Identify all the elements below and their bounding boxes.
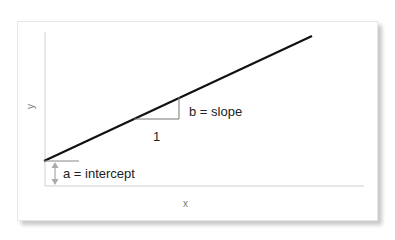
y-axis-label: y [25, 104, 36, 109]
regression-line [44, 36, 312, 161]
slope-label: b = slope [189, 104, 242, 119]
run-label: 1 [153, 129, 160, 144]
x-axis-label: x [183, 198, 188, 209]
intercept-label: a = intercept [63, 166, 135, 181]
intercept-arrow-icon [52, 162, 59, 185]
